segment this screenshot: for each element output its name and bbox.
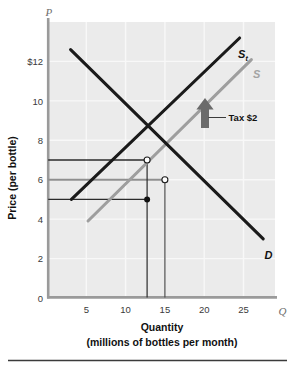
- equilibrium-with-tax-point: [144, 157, 150, 163]
- x-tick-20: 20: [199, 304, 210, 315]
- y-tick-10: 10: [32, 96, 43, 107]
- y-tick-12: $12: [27, 56, 43, 67]
- demand-label: D: [265, 249, 273, 261]
- tax-annotation-label: Tax $2: [229, 112, 258, 123]
- y-tick-8: 8: [38, 135, 43, 146]
- x-axis-subtitle: (millions of bottles per month): [86, 336, 237, 348]
- y-tick-2: 2: [38, 253, 43, 264]
- y-tick-6: 6: [38, 174, 43, 185]
- x-axis-symbol: Q: [279, 305, 287, 317]
- equilibrium-original-point: [162, 177, 168, 183]
- x-tick-25: 25: [238, 304, 249, 315]
- sellers-price-point: [144, 196, 150, 202]
- y-tick-0: 0: [38, 293, 43, 304]
- x-tick-15: 15: [160, 304, 171, 315]
- x-tick-5: 5: [84, 304, 89, 315]
- x-axis-title: Quantity: [141, 321, 184, 333]
- chart-svg: Tax $2 S t S D P Q 0 2 4 6 8 10 $12 5 10…: [0, 0, 295, 370]
- y-axis-title: Price (per bottle): [6, 136, 18, 219]
- y-tick-4: 4: [38, 214, 43, 225]
- x-tick-10: 10: [120, 304, 131, 315]
- supply-demand-tax-figure: Tax $2 S t S D P Q 0 2 4 6 8 10 $12 5 10…: [0, 0, 295, 370]
- y-axis-symbol: P: [45, 6, 53, 18]
- supply-label: S: [253, 68, 261, 80]
